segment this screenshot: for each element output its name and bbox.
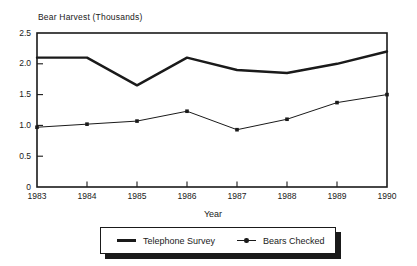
x-tick-label: 1985 <box>121 192 153 201</box>
legend-label-bears-checked: Bears Checked <box>263 236 325 246</box>
x-axis-title: Year <box>182 209 244 219</box>
marker-dot-icon <box>244 238 249 243</box>
legend-item-telephone-survey: Telephone Survey <box>117 236 215 246</box>
y-axis-ticks <box>37 64 43 156</box>
y-tick-label: 2.5 <box>7 29 31 38</box>
x-tick-label: 1989 <box>321 192 353 201</box>
bear-harvest-figure: Bear Harvest (Thousands) 00.51.01.52.02.… <box>0 0 417 266</box>
y-tick-label: 1.5 <box>7 90 31 99</box>
plot-border <box>37 33 387 187</box>
legend-label-telephone-survey: Telephone Survey <box>143 236 215 246</box>
y-tick-label: 1.0 <box>7 121 31 130</box>
telephone-survey-line-swatch <box>117 239 136 242</box>
x-tick-label: 1988 <box>271 192 303 201</box>
x-tick-label: 1984 <box>71 192 103 201</box>
bears-checked-line-swatch <box>237 240 256 241</box>
bears-checked-markers <box>35 93 389 132</box>
x-axis-ticks <box>87 182 337 188</box>
y-tick-label: 2.0 <box>7 59 31 68</box>
telephone-survey-line <box>37 51 387 85</box>
legend-item-bears-checked: Bears Checked <box>237 236 325 246</box>
bears-checked-line <box>37 95 387 130</box>
x-tick-label: 1986 <box>171 192 203 201</box>
x-tick-label: 1987 <box>221 192 253 201</box>
x-tick-label: 1983 <box>21 192 53 201</box>
y-tick-label: 0.5 <box>7 152 31 161</box>
legend: Telephone Survey Bears Checked <box>100 227 336 254</box>
x-tick-label: 1990 <box>371 192 403 201</box>
